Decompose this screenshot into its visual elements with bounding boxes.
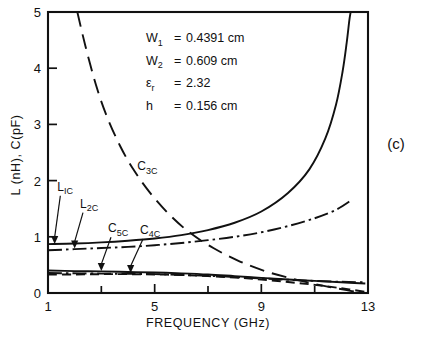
annotation-equals: = xyxy=(174,31,181,45)
panel-label: (c) xyxy=(387,135,405,152)
leader-line-L1c xyxy=(55,196,61,237)
curve-label-C3c: C3C xyxy=(137,159,158,176)
x-axis-ticks: 15913 xyxy=(44,284,375,314)
annotation-symbol: εr xyxy=(146,76,155,93)
leader-line-L2c xyxy=(75,213,83,242)
leader-arrow-L1c xyxy=(51,236,58,244)
annotation-equals: = xyxy=(174,76,181,90)
leader-arrow-C5c xyxy=(98,263,105,271)
curve-label-L2c: L2C xyxy=(80,197,99,214)
x-tick-label: 13 xyxy=(361,299,375,314)
parameter-annotations: W1=0.4391 cmW2=0.609 cmεr=2.32h=0.156 cm xyxy=(146,31,244,113)
y-tick-label: 4 xyxy=(34,61,41,76)
figure-panel-c: 012345 15913 LICL2CC3CC5CC4C FREQUENCY (… xyxy=(0,0,438,338)
y-axis-ticks: 012345 xyxy=(34,5,57,301)
y-tick-label: 0 xyxy=(34,286,41,301)
annotation-equals: = xyxy=(174,99,181,113)
y-tick-label: 3 xyxy=(34,117,41,132)
y-tick-label: 1 xyxy=(34,230,41,245)
x-tick-label: 5 xyxy=(151,299,158,314)
x-axis-title: FREQUENCY (GHz) xyxy=(146,316,270,330)
curve-labels: LICL2CC3CC5CC4C xyxy=(57,159,160,239)
y-axis-title: L (nH), C(pF) xyxy=(9,115,23,196)
annotation-symbol: h xyxy=(146,99,153,113)
curve-C4c xyxy=(48,274,365,292)
annotation-equals: = xyxy=(174,54,181,68)
leader-arrow-L2c xyxy=(71,241,78,249)
annotation-symbol: W2 xyxy=(146,54,163,71)
y-tick-label: 5 xyxy=(34,5,41,20)
curve-label-L1c: LIC xyxy=(57,180,73,197)
annotation-symbol: W1 xyxy=(146,31,163,48)
curve-label-C4c: C4C xyxy=(140,223,161,240)
y-tick-label: 2 xyxy=(34,174,41,189)
annotation-value: 0.4391 cm xyxy=(186,31,244,45)
annotation-value: 2.32 xyxy=(186,76,210,90)
x-tick-label: 9 xyxy=(258,299,265,314)
annotation-value: 0.156 cm xyxy=(186,99,237,113)
annotation-value: 0.609 cm xyxy=(186,54,237,68)
curve-label-C5c: C5C xyxy=(108,221,129,238)
leader-line-C4c xyxy=(131,239,143,266)
x-tick-label: 1 xyxy=(44,299,51,314)
